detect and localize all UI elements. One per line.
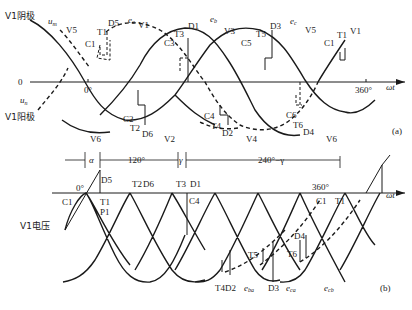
label-b-d4: D4 xyxy=(294,231,305,241)
label-b-t6: T6 xyxy=(287,249,297,259)
label-b-d1: D1 xyxy=(190,179,201,189)
label-b-t2: T2 xyxy=(132,179,142,189)
label-b-c1: C1 xyxy=(62,197,73,207)
label-ec: ec xyxy=(290,16,297,26)
label-t1: T1 xyxy=(97,27,107,37)
label-b-t1b: T1 xyxy=(335,196,345,206)
label-b-eba: eba xyxy=(244,283,254,293)
label-ea: ea xyxy=(128,15,135,25)
label-v2: V2 xyxy=(164,134,175,144)
label-c5: C5 xyxy=(241,38,252,48)
zero-deg-a: 0° xyxy=(84,85,93,95)
label-t5: T5 xyxy=(256,29,266,39)
label-d3: D3 xyxy=(270,21,281,31)
label-c4: C4 xyxy=(204,111,215,121)
um-label: um xyxy=(48,16,58,27)
label-b-d6: D6 xyxy=(143,179,154,189)
gamma-label: γ xyxy=(179,155,183,165)
label-eb: eb xyxy=(210,14,217,24)
deg360-a: 360° xyxy=(355,85,373,95)
panel-a-tag: (a) xyxy=(392,126,402,136)
label-b-t1: T1 xyxy=(100,197,110,207)
label-b-c1b: C1 xyxy=(316,196,327,206)
label-c1b: C1 xyxy=(324,38,335,48)
label-b-t3: T3 xyxy=(176,179,186,189)
label-d5: D5 xyxy=(108,18,119,28)
label-c3: C3 xyxy=(164,38,175,48)
label-v4: V4 xyxy=(246,134,257,144)
label-v1b: V1 xyxy=(350,26,361,36)
label-b-c4: C4 xyxy=(189,196,200,206)
deg120-label: 120° xyxy=(128,155,146,165)
label-t6: T6 xyxy=(293,120,303,130)
label-v6: V6 xyxy=(90,134,101,144)
omega-t-b: ωt xyxy=(386,190,395,200)
label-b-ecb: ecb xyxy=(324,283,334,293)
omega-t-a: ωt xyxy=(386,82,395,92)
un-label: un xyxy=(20,95,28,106)
cathode-label: V1阴极 xyxy=(5,10,35,21)
label-c6: C6 xyxy=(286,110,297,120)
label-v6b: V6 xyxy=(326,134,337,144)
wave-ea xyxy=(60,30,90,68)
label-b-d3: D3 xyxy=(268,283,279,293)
alpha-label: α xyxy=(89,155,94,165)
commutation-waveform-diagram: V1阴极 um 0 0° un V1阳极 360° ωt (a) V5 C1 T… xyxy=(0,0,412,310)
deg360-b: 360° xyxy=(312,182,330,192)
voltage-label: V1电压 xyxy=(20,220,50,231)
label-d4: D4 xyxy=(303,127,314,137)
panel-b-tag: (b) xyxy=(380,283,391,293)
label-v5b: V5 xyxy=(305,25,316,35)
anode-label: V1阳极 xyxy=(5,111,35,122)
label-b-t5: T5 xyxy=(248,250,258,260)
label-d6: D6 xyxy=(142,129,153,139)
label-d2: D2 xyxy=(222,128,233,138)
zero-deg-b: 0° xyxy=(76,183,85,193)
label-t2: T2 xyxy=(130,123,140,133)
label-t4: T4 xyxy=(211,121,221,131)
label-v5: V5 xyxy=(66,25,77,35)
origin-label: 0 xyxy=(18,77,23,87)
label-b-t4d2: T4D2 xyxy=(215,283,236,293)
label-t1b: T1 xyxy=(337,30,347,40)
label-v1: V1 xyxy=(138,20,149,30)
label-d1: D1 xyxy=(188,21,199,31)
label-t3: T3 xyxy=(174,29,184,39)
label-b-d5: D5 xyxy=(101,175,112,185)
label-b-eca: eca xyxy=(286,283,296,293)
label-c1: C1 xyxy=(85,39,96,49)
deg240-label: 240°−γ xyxy=(258,155,284,165)
label-v3: V3 xyxy=(224,26,235,36)
label-b-p1: P1 xyxy=(100,207,110,217)
